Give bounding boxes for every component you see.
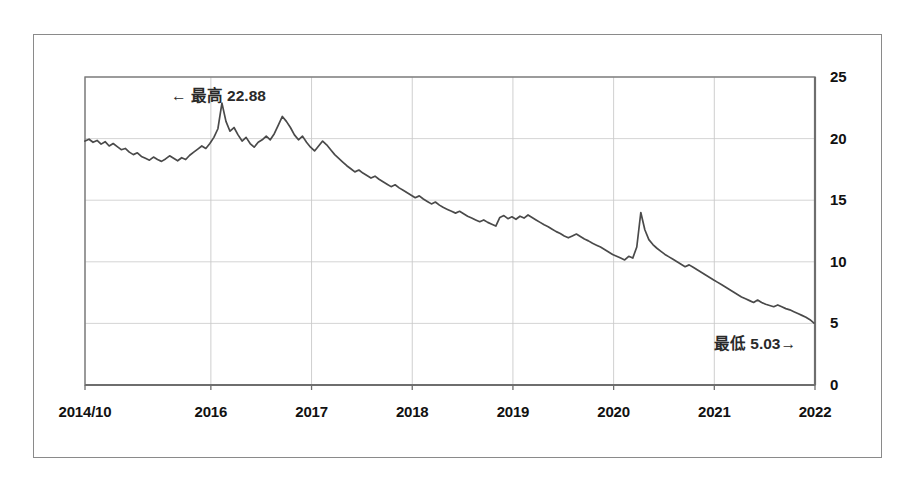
line-chart-plot (0, 0, 916, 485)
min-annotation: 最低 5.03→ (714, 331, 796, 353)
max-annotation: ← 最高 22.88 (171, 83, 266, 105)
chart-figure: 0510152025 2014/102016201720182019202020… (0, 0, 916, 485)
y-tick-label-15: 15 (830, 191, 846, 208)
x-tick-label-2022: 2022 (799, 403, 832, 420)
y-tick-label-0: 0 (830, 376, 838, 393)
y-tick-label-5: 5 (830, 314, 838, 331)
x-tick-label-2019: 2019 (497, 403, 530, 420)
y-tick-label-10: 10 (830, 253, 846, 270)
x-tick-label-2021: 2021 (698, 403, 731, 420)
y-tick-label-25: 25 (830, 68, 846, 85)
x-tick-label-2017: 2017 (295, 403, 328, 420)
x-tick-label-2020: 2020 (597, 403, 630, 420)
y-tick-label-20: 20 (830, 130, 846, 147)
x-tick-label-2014-10: 2014/10 (59, 403, 112, 420)
plot-background (85, 77, 815, 385)
x-tick-label-2016: 2016 (195, 403, 228, 420)
x-tick-label-2018: 2018 (396, 403, 429, 420)
